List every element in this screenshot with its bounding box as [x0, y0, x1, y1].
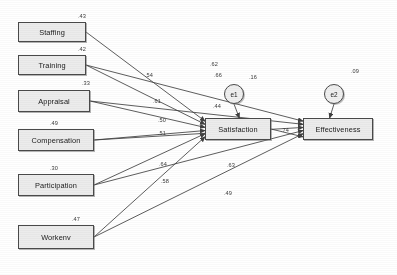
variance-label-training: .42 [78, 46, 86, 52]
path-arrow-workenv-to-satisfaction [94, 137, 205, 237]
path-arrow-workenv-to-effectiveness [94, 134, 303, 237]
path-coefficient-workenv-effectiveness: .49 [224, 190, 232, 196]
path-coefficient-training-effectiveness: .66 [214, 72, 222, 78]
variance-label-participation: .30 [50, 165, 58, 171]
variance-label-workenv: .47 [72, 216, 80, 222]
node-participation-label: Participation [35, 181, 77, 190]
node-compensation[interactable]: Compensation [18, 129, 94, 151]
variance-label-compensation: .49 [50, 120, 58, 126]
node-effectiveness[interactable]: Effectiveness [303, 118, 373, 140]
node-workenv-label: Workenv [41, 233, 71, 242]
path-diagram-canvas: Staffing .43 Training .42 Appraisal .33 … [0, 0, 397, 275]
node-staffing[interactable]: Staffing [18, 22, 86, 42]
node-training[interactable]: Training [18, 55, 86, 75]
path-coefficient-e2-effectiveness: .09 [351, 68, 359, 74]
path-arrow-participation-to-satisfaction [94, 134, 205, 185]
error-term-e2-label: e2 [330, 91, 337, 98]
path-coefficient-appraisal-effectiveness: .44 [213, 103, 221, 109]
path-coefficient-compensation-satisfaction: .51 [158, 130, 166, 136]
path-arrow-e1-to-satisfaction [234, 104, 239, 118]
node-appraisal[interactable]: Appraisal [18, 90, 90, 112]
path-arrow-appraisal-to-satisfaction [90, 101, 205, 127]
node-appraisal-label: Appraisal [38, 97, 70, 106]
node-effectiveness-label: Effectiveness [315, 125, 360, 134]
path-coefficient-participation-satisfaction: .64 [159, 161, 167, 167]
node-compensation-label: Compensation [32, 136, 81, 145]
path-coefficient-training-satisfaction: .54 [145, 72, 153, 78]
node-training-label: Training [38, 61, 65, 70]
error-term-e1[interactable]: e1 [224, 84, 244, 104]
node-satisfaction-label: Satisfaction [218, 125, 257, 134]
path-coefficient-staffing-satisfaction: .62 [210, 61, 218, 67]
path-coefficient-satisfaction-effectiveness: .74 [281, 127, 289, 133]
variance-label-appraisal: .33 [82, 80, 90, 86]
error-term-e1-label: e1 [230, 91, 237, 98]
error-term-e2[interactable]: e2 [324, 84, 344, 104]
node-satisfaction[interactable]: Satisfaction [205, 118, 271, 140]
node-workenv[interactable]: Workenv [18, 225, 94, 249]
node-staffing-label: Staffing [39, 28, 65, 37]
path-coefficient-compensation-effectiveness: .50 [158, 117, 166, 123]
variance-label-staffing: .43 [78, 13, 86, 19]
path-arrow-e2-to-effectiveness [330, 104, 334, 118]
path-coefficient-e1-satisfaction: .16 [249, 74, 257, 80]
node-participation[interactable]: Participation [18, 174, 94, 196]
path-coefficient-appraisal-satisfaction: .61 [153, 98, 161, 104]
path-arrow-participation-to-effectiveness [94, 131, 303, 185]
path-coefficient-workenv-satisfaction: .58 [161, 178, 169, 184]
path-coefficient-participation-effectiveness: .63 [227, 162, 235, 168]
